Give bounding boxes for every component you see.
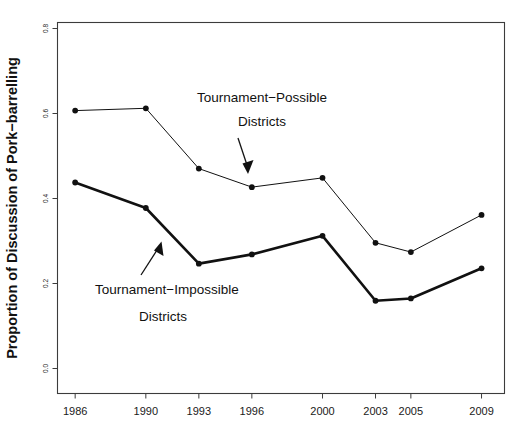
data-point-marker <box>72 180 78 186</box>
data-point-marker <box>143 105 149 111</box>
y-axis-ticks <box>53 29 58 369</box>
data-point-marker <box>196 166 202 172</box>
data-point-marker <box>320 233 326 239</box>
data-point-marker <box>249 251 255 257</box>
y-axis-title: Proportion of Discussion of Pork−barrell… <box>4 57 20 359</box>
data-point-marker <box>479 212 485 218</box>
data-point-marker <box>196 261 202 267</box>
data-point-marker <box>408 296 414 302</box>
data-point-marker <box>72 108 78 114</box>
data-point-marker <box>320 175 326 181</box>
y-tick-label: 0.6 <box>42 109 49 118</box>
data-point-marker <box>373 240 379 246</box>
data-point-marker <box>373 298 379 304</box>
annotation-possible-line2: Districts <box>238 114 286 129</box>
annotation-impossible-line2: Districts <box>139 309 187 324</box>
y-tick-label: 0.2 <box>42 279 49 288</box>
data-point-marker <box>408 249 414 255</box>
x-tick-label: 2000 <box>310 405 334 417</box>
x-tick-label: 2003 <box>363 405 387 417</box>
y-tick-label: 0.4 <box>42 194 49 203</box>
up-arrow-icon <box>141 242 164 276</box>
x-tick-label: 2005 <box>399 405 423 417</box>
x-tick-label: 1986 <box>63 405 87 417</box>
annotation-impossible-line1: Tournament−Impossible <box>95 282 239 297</box>
y-tick-label: 0.0 <box>42 364 49 373</box>
x-tick-label: 2009 <box>469 405 493 417</box>
annotation-tournament-impossible: Tournament−Impossible Districts <box>95 242 239 325</box>
x-tick-label: 1996 <box>240 405 264 417</box>
line-chart-canvas: 0.8 0.6 0.4 0.2 0.0 Proportion of Discus… <box>0 0 526 436</box>
y-axis-tick-labels: 0.8 0.6 0.4 0.2 0.0 <box>42 24 49 373</box>
down-arrow-icon <box>238 138 254 174</box>
series-line-tournament-possible <box>75 108 481 252</box>
data-point-marker <box>479 265 485 271</box>
x-tick-label: 1990 <box>134 405 158 417</box>
data-point-marker <box>143 205 149 211</box>
x-axis-tick-labels: 19861990199319962000200320052009 <box>63 405 494 417</box>
chart-figure: 0.8 0.6 0.4 0.2 0.0 Proportion of Discus… <box>0 0 526 436</box>
plot-frame <box>58 23 505 394</box>
x-axis-ticks <box>75 394 481 399</box>
x-tick-label: 1993 <box>187 405 211 417</box>
annotation-tournament-possible: Tournament−Possible Districts <box>197 90 327 174</box>
y-tick-label: 0.8 <box>42 24 49 33</box>
annotation-possible-line1: Tournament−Possible <box>197 90 327 105</box>
data-point-marker <box>249 184 255 190</box>
